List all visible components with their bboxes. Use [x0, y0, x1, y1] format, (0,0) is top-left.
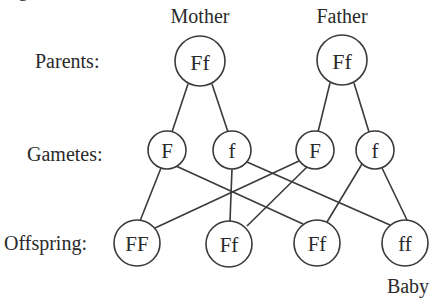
baby-label: Baby — [387, 275, 429, 298]
edge-mother-F-to-Ff-3 — [176, 166, 303, 224]
parent-node-father: Ff — [317, 35, 367, 85]
parent-gamete-edges — [172, 83, 369, 132]
offspring-node-1: FF — [114, 220, 160, 266]
edge-father-F-to-FF — [155, 161, 299, 228]
gamete-allele: F — [161, 139, 173, 163]
gamete-allele: f — [372, 139, 379, 163]
offspring-genotype: Ff — [220, 233, 239, 257]
edge-father-f-to-Ff-3 — [327, 164, 362, 222]
parents-row-label: Parents: — [35, 50, 99, 72]
edge-mother-F-to-FF — [140, 168, 161, 221]
father-label: Father — [316, 5, 367, 27]
gamete-node-father-f: f — [356, 131, 394, 169]
gamete-node-father-F: F — [296, 131, 334, 169]
gamete-node-mother-f: f — [213, 131, 251, 169]
mother-genotype: Ff — [190, 50, 210, 75]
punnett-cross-diagram: g Mother Father Parents: Gametes: Offspr… — [0, 0, 434, 304]
gamete-allele: f — [229, 139, 236, 163]
figure-title-fragment: g — [18, 0, 28, 1]
edge-mother-f-to-ff — [247, 162, 390, 225]
offspring-node-3: Ff — [294, 220, 340, 266]
offspring-row-label: Offspring: — [4, 232, 87, 255]
offspring-node-4-baby: ff — [382, 220, 428, 266]
offspring-genotype: Ff — [308, 232, 327, 256]
parent-node-mother: Ff — [175, 36, 225, 86]
edge-mother-to-mother-f — [212, 84, 228, 132]
gamete-allele: F — [309, 139, 321, 163]
gamete-offspring-edges — [140, 161, 407, 228]
offspring-genotype: FF — [125, 232, 148, 256]
father-genotype: Ff — [332, 49, 352, 74]
edge-mother-f-to-Ff-2 — [230, 169, 232, 221]
edge-father-to-father-F — [318, 83, 330, 132]
edge-mother-to-mother-F — [172, 84, 188, 132]
offspring-genotype: ff — [398, 232, 412, 256]
gamete-node-mother-F: F — [148, 131, 186, 169]
gametes-row-label: Gametes: — [27, 143, 103, 165]
offspring-node-2: Ff — [206, 221, 252, 267]
edge-father-to-father-f — [354, 83, 369, 132]
edge-father-f-to-ff — [382, 168, 407, 220]
mother-label: Mother — [171, 5, 230, 27]
